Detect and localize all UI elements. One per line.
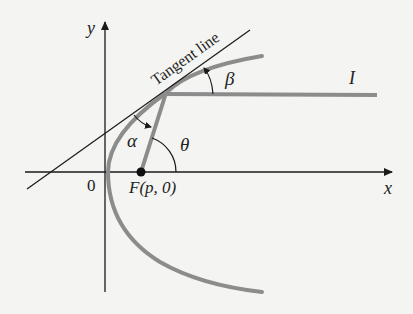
tangent-line	[27, 30, 250, 189]
focus-label: F(p, 0)	[128, 178, 177, 197]
parabola-curve	[108, 56, 262, 292]
incident-ray	[166, 94, 377, 95]
origin-label: 0	[87, 176, 96, 195]
focus-point	[137, 168, 146, 177]
beta-label: β	[224, 68, 235, 89]
theta-label: θ	[180, 134, 189, 155]
alpha-label: α	[127, 130, 138, 151]
incident-ray-label: I	[348, 68, 356, 88]
parabola-reflection-diagram: y x 0 F(p, 0) Tangent line α θ β I	[0, 0, 413, 314]
y-axis-label: y	[85, 18, 95, 38]
theta-arc	[152, 138, 176, 172]
x-axis-label: x	[383, 178, 392, 198]
